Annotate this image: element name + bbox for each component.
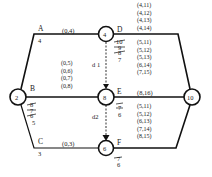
edge-d-pairs-below: (5,11) (5,12) (5,13) (6,14) (7,15) [137,39,152,77]
edge-e-duration: 6 [118,111,121,118]
edge-e-pair: (7,14) [137,126,152,134]
dummy-d1-label: d 1 [92,61,100,68]
network-diagram: 2 4 8 6 10 A (0,4) 4 B (0,5) (0,6) (0,7)… [0,0,212,177]
edge-d-pair: (7,15) [137,69,152,77]
edge-e-pairs-below: (5,11) (5,12) (6,13) (7,14) (8,15) [137,103,152,141]
edge-d-pair: (4,14) [137,25,152,33]
node-4-label: 4 [103,31,106,38]
edge-c-name: C [38,138,43,145]
edge-e-struck: 7 [118,104,121,111]
edge-d-pair: (5,12) [137,47,152,55]
edge-b-duration: 5 [32,119,35,126]
edge-d-pair: (5,13) [137,54,152,62]
edge-d-pair: (4,12) [137,10,152,18]
node-8-label: 8 [103,94,106,101]
edge-b-pair: (0,6) [61,68,73,76]
edge-b-struck-3: 6 [30,112,33,119]
edge-b-name: B [30,85,35,92]
edge-e-pair: (5,11) [137,103,152,111]
edge-d-pairs-above: (4,11) (4,12) (4,13) (4,14) [137,2,152,32]
node-6-label: 6 [103,145,106,152]
edge-b-pairs: (0,5) (0,6) (0,7) (0,8) [61,60,73,90]
edge-c-pair: (0,3) [62,140,74,147]
edge-e-pair: (6,13) [137,118,152,126]
edge-f-line [114,105,190,148]
edge-d-pair: (6,14) [137,62,152,70]
edge-d-pair: (4,13) [137,17,152,25]
edge-a-duration: 4 [38,37,41,44]
edge-d-pair: (4,11) [137,2,152,10]
edge-d-name: D [117,26,122,33]
dummy-d2-label: d2 [92,113,99,120]
node-10-label: 10 [187,94,194,101]
node-2-label: 2 [15,94,18,101]
edge-d-struck-3: 8 [118,49,121,56]
edge-e-pair: (5,12) [137,111,152,119]
edge-e-pair: (8,15) [137,133,152,141]
edge-f-name: F [117,139,121,146]
edge-b-pair: (0,8) [61,83,73,91]
edge-c-duration: 3 [38,150,41,157]
edge-e-pair: (8,16) [137,89,153,96]
edge-f-duration: 6 [117,161,120,168]
edge-a-line [21,34,99,89]
edge-d-duration: 7 [118,56,121,63]
edge-b-pair: (0,5) [61,60,73,68]
edge-e-name: E [117,88,122,95]
edge-d-pair: (5,11) [137,39,152,47]
edge-b-pair: (0,7) [61,75,73,83]
edge-a-pair: (0,4) [62,27,74,34]
edge-a-name: A [38,25,43,32]
